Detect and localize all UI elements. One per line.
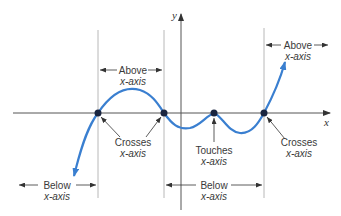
- label-crosses-2-line1: Crosses: [281, 137, 318, 148]
- curve-left-arrow: [74, 168, 76, 176]
- polynomial-zeros-diagram: x y Above x-axis Above x-axis Below x-ax…: [0, 0, 341, 216]
- zero-point-1: [95, 110, 102, 117]
- region-above-1-line2: x-axis: [119, 76, 146, 87]
- label-touches-line2: x-axis: [200, 156, 227, 167]
- region-below-middle-line1: Below: [200, 180, 228, 191]
- region-above-right-line1: Above: [284, 40, 313, 51]
- y-axis-label: y: [171, 9, 177, 21]
- zero-point-3: [211, 110, 218, 117]
- label-crosses-1-line2: x-axis: [119, 148, 146, 159]
- region-above-right-line2: x-axis: [284, 51, 311, 62]
- label-crosses-2-line2: x-axis: [285, 148, 312, 159]
- region-below-middle: Below x-axis: [166, 180, 262, 202]
- label-touches-line1: Touches: [195, 145, 232, 156]
- region-above-1-line1: Above: [119, 65, 148, 76]
- region-above-right: Above x-axis: [266, 40, 328, 62]
- region-below-left-line2: x-axis: [43, 191, 70, 202]
- zero-point-2: [161, 110, 168, 117]
- region-below-left: Below x-axis: [19, 180, 96, 202]
- x-axis-label: x: [323, 116, 329, 128]
- zero-point-4: [261, 110, 268, 117]
- label-crosses-1-line1: Crosses: [115, 137, 152, 148]
- label-crosses-1: Crosses x-axis: [101, 117, 161, 159]
- region-above-1: Above x-axis: [100, 65, 162, 87]
- region-below-left-line1: Below: [43, 180, 71, 191]
- region-below-middle-line2: x-axis: [200, 191, 227, 202]
- label-crosses-2: Crosses x-axis: [267, 117, 317, 159]
